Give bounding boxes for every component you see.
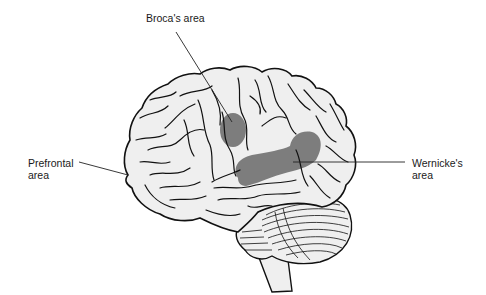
brain-diagram: Broca's area Prefrontal area Wernicke's … [0,0,486,295]
broca-label-text: Broca's area [146,12,205,24]
brain-illustration [0,0,486,295]
wernicke-label-line1: Wernicke's [412,157,463,169]
label-wernicke-area: Wernicke's area [412,157,463,181]
label-broca-area: Broca's area [146,12,205,24]
prefrontal-label-line1: Prefrontal [28,157,74,169]
label-prefrontal-area: Prefrontal area [28,157,74,181]
wernicke-label-line2: area [412,169,463,181]
prefrontal-label-line2: area [28,169,74,181]
prefrontal-leader-line [79,162,128,175]
